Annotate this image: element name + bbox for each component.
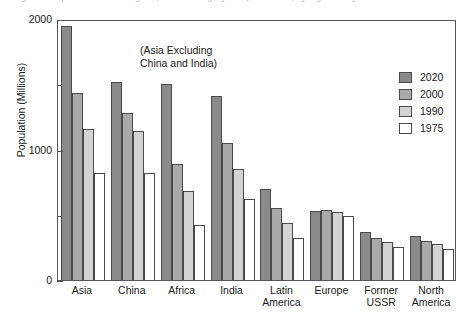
bar bbox=[282, 223, 293, 280]
bar bbox=[133, 131, 144, 280]
plot-area: (Asia Excluding China and India) 2020200… bbox=[57, 20, 456, 281]
bar bbox=[343, 216, 354, 280]
bar bbox=[293, 238, 304, 280]
x-tick-label: Asia bbox=[57, 285, 107, 297]
bar-group bbox=[58, 21, 108, 280]
asia-annotation: (Asia Excluding China and India) bbox=[140, 44, 217, 69]
legend-label: 2000 bbox=[420, 89, 443, 100]
y-tick-label: 2000 bbox=[0, 14, 52, 25]
legend-label: 1975 bbox=[420, 123, 443, 134]
legend: 2020200019901975 bbox=[399, 69, 443, 137]
bar bbox=[222, 143, 233, 280]
bar bbox=[183, 191, 194, 280]
figure-caption-text: Figure 1. Population of world regions, 1… bbox=[14, 0, 371, 2]
bar bbox=[421, 241, 432, 280]
figure-caption-cropped: Figure 1. Population of world regions, 1… bbox=[0, 0, 466, 9]
chart-figure: Figure 1. Population of world regions, 1… bbox=[0, 0, 466, 317]
legend-swatch-icon bbox=[399, 123, 412, 134]
x-tick-label: India bbox=[207, 285, 257, 297]
legend-item[interactable]: 2020 bbox=[399, 69, 443, 86]
bar bbox=[443, 249, 454, 280]
legend-label: 1990 bbox=[420, 106, 443, 117]
legend-item[interactable]: 1990 bbox=[399, 103, 443, 120]
bar bbox=[83, 129, 94, 280]
x-tick-label: Europe bbox=[306, 285, 356, 297]
legend-item[interactable]: 2000 bbox=[399, 86, 443, 103]
y-tick-major bbox=[57, 281, 63, 282]
bar bbox=[382, 242, 393, 280]
y-axis-title: Population (Millions) bbox=[15, 35, 27, 185]
y-tick-minor bbox=[57, 216, 61, 217]
bar bbox=[161, 84, 172, 280]
bar bbox=[233, 169, 244, 280]
bar-group bbox=[258, 21, 308, 280]
bar bbox=[410, 236, 421, 280]
bar bbox=[260, 189, 271, 280]
bar-group bbox=[357, 21, 407, 280]
x-tick-label: Former USSR bbox=[356, 285, 406, 308]
legend-item[interactable]: 1975 bbox=[399, 120, 443, 137]
bar bbox=[393, 247, 404, 280]
legend-swatch-icon bbox=[399, 106, 412, 117]
bar bbox=[122, 113, 133, 280]
bar bbox=[244, 199, 255, 280]
bar-group bbox=[407, 21, 457, 280]
bar bbox=[144, 173, 155, 280]
bar bbox=[271, 208, 282, 280]
y-tick-label: 1000 bbox=[0, 145, 52, 156]
legend-swatch-icon bbox=[399, 72, 412, 83]
bar bbox=[360, 232, 371, 280]
bar bbox=[72, 93, 83, 280]
bar-group bbox=[307, 21, 357, 280]
bar bbox=[172, 164, 183, 280]
bar bbox=[321, 210, 332, 280]
bar bbox=[194, 225, 205, 280]
bar bbox=[94, 173, 105, 280]
y-tick-label: 0 bbox=[0, 275, 52, 286]
x-tick-label: North America bbox=[406, 285, 456, 308]
bar bbox=[310, 211, 321, 280]
legend-label: 2020 bbox=[420, 72, 443, 83]
bar bbox=[111, 82, 122, 280]
y-tick-major bbox=[57, 20, 63, 21]
bars-layer bbox=[58, 21, 455, 280]
x-tick-label: Africa bbox=[157, 285, 207, 297]
bar bbox=[61, 26, 72, 280]
y-tick-major bbox=[57, 151, 63, 152]
bar bbox=[332, 212, 343, 281]
bar bbox=[371, 238, 382, 280]
legend-swatch-icon bbox=[399, 89, 412, 100]
bar bbox=[211, 96, 222, 280]
x-tick-label: Latin America bbox=[257, 285, 307, 308]
x-tick-label: China bbox=[107, 285, 157, 297]
y-tick-minor bbox=[57, 85, 61, 86]
y-axis: Population (Millions) bbox=[0, 0, 53, 317]
bar bbox=[432, 244, 443, 280]
